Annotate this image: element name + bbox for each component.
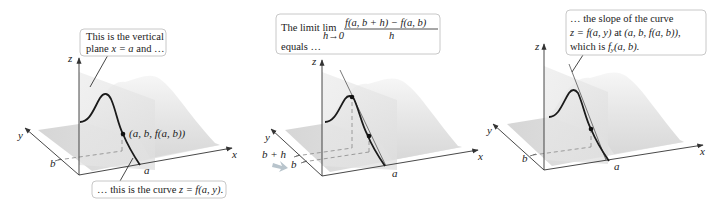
callout-limit-subscript: h→0 xyxy=(323,30,345,41)
callout-limit-line2: equals … xyxy=(281,41,321,52)
callout-slope-line2: z = f(a, y) at (a, b, f(a, b)), xyxy=(569,27,681,39)
direction-hint-arrow xyxy=(272,161,288,172)
partial-derivative-figure: z x y b a (a, b, f(a, b)) This is the ve… xyxy=(0,0,725,200)
x-axis-label: x xyxy=(231,148,237,160)
tick-b-plus-h xyxy=(294,155,300,157)
z-axis-label: z xyxy=(311,55,317,67)
point-label: (a, b, f(a, b)) xyxy=(129,127,186,140)
point-a-b-plus-h xyxy=(350,95,355,100)
z-axis-label: z xyxy=(534,40,540,52)
callout-plane-line1: This is the vertical xyxy=(86,31,164,42)
tick-label-a: a xyxy=(614,160,620,172)
x-axis-label: x xyxy=(477,150,483,162)
point-a-b-fab xyxy=(589,127,594,132)
tick-label-b: b xyxy=(522,152,528,164)
z-axis-label: z xyxy=(67,52,73,64)
tick-label-b-plus-h: b + h xyxy=(262,148,286,160)
tick-label-b: b xyxy=(291,158,297,170)
y-axis-label: y xyxy=(17,129,23,141)
callout-limit-denominator: h xyxy=(389,30,394,41)
tick-b xyxy=(301,161,307,163)
tick-label-b: b xyxy=(50,157,56,169)
tick-label-a: a xyxy=(144,164,150,176)
point-a-b xyxy=(367,134,372,139)
point-a-b-fab xyxy=(121,132,126,137)
panel-2: z x y b + h b a The limit lim h→0 f(a, b… xyxy=(262,14,483,179)
x-axis-label: x xyxy=(699,145,705,157)
tick-label-a: a xyxy=(392,167,398,179)
y-axis-label: y xyxy=(264,131,270,143)
callout-limit-numerator: f(a, b + h) − f(a, b) xyxy=(345,17,427,29)
callout-curve-text: … this is the curve z = f(a, y). xyxy=(97,184,223,196)
callout-slope-line1: … the slope of the curve xyxy=(570,13,674,24)
callout-plane-line2: plane x = a and … xyxy=(86,43,165,54)
y-axis-label: y xyxy=(486,124,492,136)
panel-1: z x y b a (a, b, f(a, b)) This is the ve… xyxy=(17,29,237,198)
callout-pointer-slope xyxy=(572,55,583,72)
panel-3: z x y b a … the slope of the curve z = f… xyxy=(486,10,706,172)
